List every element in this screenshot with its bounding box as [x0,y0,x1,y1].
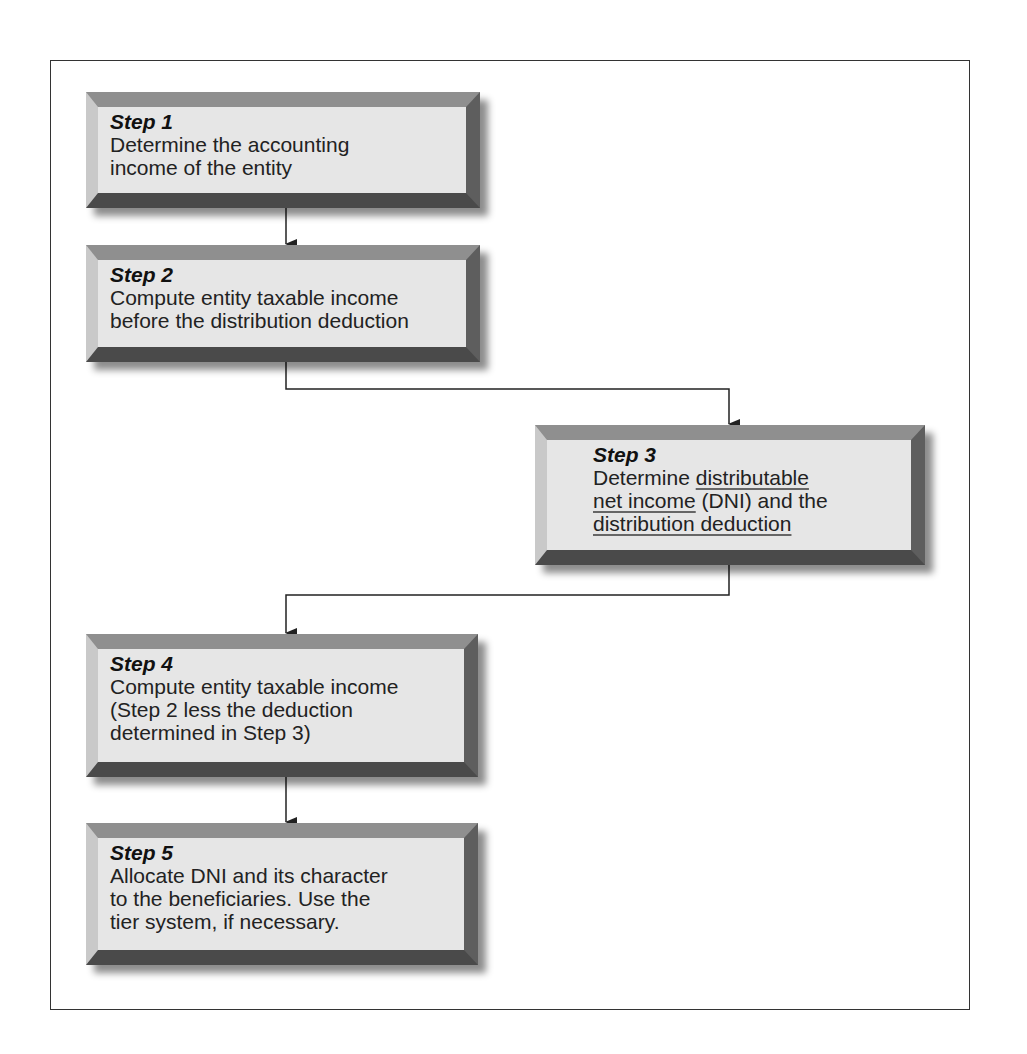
step-4-text-line: determined in Step 3) [110,721,458,744]
step-3-text-line: net income (DNI) and the [593,489,905,512]
step-5-text-line: tier system, if necessary. [110,910,458,933]
step-4-box: Step 4 Compute entity taxable income (St… [86,634,478,777]
step-4-text-line: (Step 2 less the deduction [110,698,458,721]
term-distribution-deduction: distribution deduction [593,512,791,535]
step-3-title: Step 3 [593,443,905,466]
step-3-text-line: distribution deduction [593,512,905,535]
step-3-text: Determine [593,466,696,489]
arrow-step3-to-step4 [286,565,729,633]
step-1-title: Step 1 [110,110,460,133]
step-5-title: Step 5 [110,841,458,864]
step-2-box: Step 2 Compute entity taxable income bef… [86,245,480,362]
step-2-text-line: before the distribution deduction [110,309,460,332]
step-2-text-line: Compute entity taxable income [110,286,460,309]
term-net-income: net income [593,489,696,512]
step-1-text-line: income of the entity [110,156,460,179]
step-3-box: Step 3 Determine distributable net incom… [535,425,925,565]
step-4-text-line: Compute entity taxable income [110,675,458,698]
step-4-title: Step 4 [110,652,458,675]
arrow-step2-to-step3 [286,362,729,424]
step-5-text-line: to the beneficiaries. Use the [110,887,458,910]
step-5-box: Step 5 Allocate DNI and its character to… [86,823,478,965]
step-3-text-line: Determine distributable [593,466,905,489]
step-5-text-line: Allocate DNI and its character [110,864,458,887]
step-1-box: Step 1 Determine the accounting income o… [86,92,480,208]
step-1-text-line: Determine the accounting [110,133,460,156]
term-distributable: distributable [696,466,809,489]
step-3-text: (DNI) and the [696,489,828,512]
step-2-title: Step 2 [110,263,460,286]
